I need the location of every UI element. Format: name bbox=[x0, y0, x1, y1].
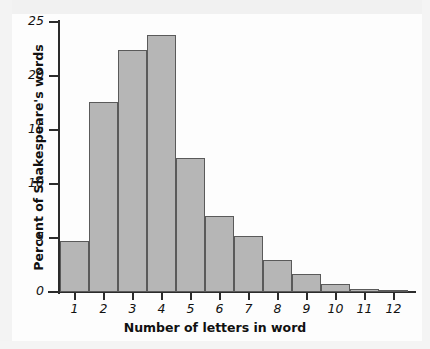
x-tick-label: 1 bbox=[60, 303, 90, 316]
x-axis-title: Number of letters in word bbox=[0, 320, 430, 335]
y-tick-mark bbox=[49, 75, 58, 77]
histogram-bar bbox=[118, 50, 147, 292]
y-axis-title: Percent of Shakespeare's words bbox=[31, 28, 46, 288]
histogram-bar bbox=[60, 241, 89, 292]
x-tick-mark bbox=[393, 293, 395, 300]
x-tick-label: 7 bbox=[234, 303, 264, 316]
scan-edge-bottom bbox=[0, 341, 430, 349]
histogram-bar bbox=[263, 260, 292, 292]
histogram-bar bbox=[350, 289, 379, 292]
y-tick-mark bbox=[49, 291, 58, 293]
x-tick-mark bbox=[132, 293, 134, 300]
x-tick-label: 8 bbox=[263, 303, 293, 316]
scan-edge-top bbox=[0, 0, 430, 14]
x-tick-label: 5 bbox=[176, 303, 206, 316]
histogram-bar bbox=[321, 284, 350, 292]
histogram-bar bbox=[234, 236, 263, 292]
histogram-bar bbox=[176, 158, 205, 292]
x-tick-mark bbox=[103, 293, 105, 300]
x-tick-mark bbox=[306, 293, 308, 300]
x-tick-label: 2 bbox=[89, 303, 119, 316]
x-tick-mark bbox=[219, 293, 221, 300]
y-tick-mark bbox=[49, 237, 58, 239]
x-tick-label: 4 bbox=[147, 303, 177, 316]
x-tick-mark bbox=[364, 293, 366, 300]
y-tick-mark bbox=[49, 183, 58, 185]
x-tick-label: 6 bbox=[205, 303, 235, 316]
scan-edge-right bbox=[422, 0, 430, 349]
x-tick-mark bbox=[190, 293, 192, 300]
y-tick-mark bbox=[49, 129, 58, 131]
x-tick-label: 12 bbox=[379, 303, 409, 316]
histogram-bar bbox=[147, 35, 176, 292]
x-tick-mark bbox=[161, 293, 163, 300]
x-tick-mark bbox=[335, 293, 337, 300]
x-tick-label: 3 bbox=[118, 303, 148, 316]
histogram-bar bbox=[292, 274, 321, 292]
x-tick-mark bbox=[248, 293, 250, 300]
histogram-figure: 0510152025 123456789101112 Percent of Sh… bbox=[0, 0, 430, 349]
x-tick-mark bbox=[74, 293, 76, 300]
x-tick-mark bbox=[277, 293, 279, 300]
x-tick-label: 10 bbox=[321, 303, 351, 316]
histogram-bar bbox=[205, 216, 234, 292]
x-tick-label: 9 bbox=[292, 303, 322, 316]
histogram-bar bbox=[89, 102, 118, 292]
plot-area bbox=[60, 22, 408, 292]
histogram-bar bbox=[379, 290, 408, 292]
x-tick-label: 11 bbox=[350, 303, 380, 316]
y-tick-label: 25 bbox=[4, 15, 44, 28]
y-tick-mark bbox=[49, 21, 58, 23]
